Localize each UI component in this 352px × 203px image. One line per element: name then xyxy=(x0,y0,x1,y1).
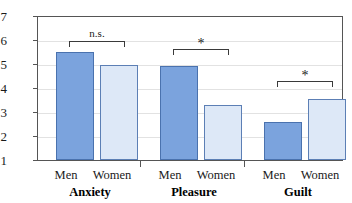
x-sub-label-guilt-men: Men xyxy=(251,169,297,182)
x-axis-separator xyxy=(244,161,245,167)
x-sub-label-guilt-women: Women xyxy=(295,169,345,182)
bar-guilt-women xyxy=(308,99,346,160)
x-category-label-pleasure: Pleasure xyxy=(147,186,241,199)
y-tick-label: 5 xyxy=(0,58,7,71)
x-category-label-anxiety: Anxiety xyxy=(43,186,137,199)
significance-label-guilt: * xyxy=(277,69,333,83)
y-tick-label: 3 xyxy=(0,106,7,119)
significance-label-pleasure: * xyxy=(173,37,229,51)
bar-anxiety-men xyxy=(56,52,94,160)
bar-chart: 7 6 5 4 3 2 1 xyxy=(0,0,352,203)
bar-anxiety-women xyxy=(100,65,138,160)
y-tick-label: 4 xyxy=(0,82,7,95)
plot-area: n.s. * * xyxy=(37,16,343,161)
significance-label-anxiety: n.s. xyxy=(69,28,125,39)
x-sub-label-pleasure-men: Men xyxy=(147,169,193,182)
y-tick-label: 1 xyxy=(0,154,7,167)
x-category-label-guilt: Guilt xyxy=(251,186,345,199)
y-tick-label: 2 xyxy=(0,130,7,143)
x-axis-separator xyxy=(140,161,141,167)
x-sub-label-pleasure-women: Women xyxy=(191,169,241,182)
x-sub-label-anxiety-women: Women xyxy=(87,169,137,182)
bar-guilt-men xyxy=(264,122,302,160)
y-tick-label: 6 xyxy=(0,34,7,47)
significance-bracket-anxiety xyxy=(69,41,125,47)
y-tick-label: 7 xyxy=(0,10,7,23)
bar-pleasure-men xyxy=(160,66,198,160)
x-sub-label-anxiety-men: Men xyxy=(43,169,89,182)
bar-pleasure-women xyxy=(204,105,242,160)
